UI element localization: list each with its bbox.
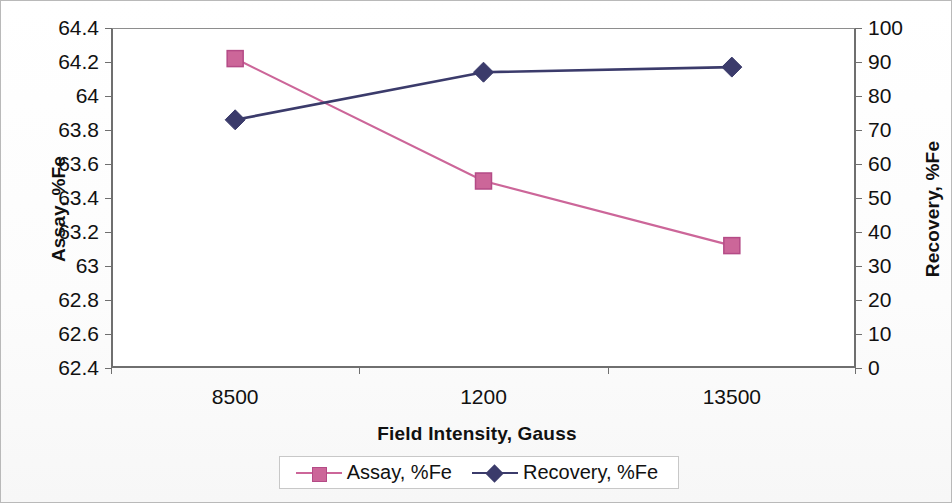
left-tick-label: 64 — [76, 85, 99, 106]
left-tick-label: 63.6 — [58, 153, 99, 174]
tickmark — [855, 232, 862, 233]
legend-entry-assay: Assay, %Fe — [296, 461, 456, 484]
plot-area — [111, 28, 856, 368]
legend-swatch-assay — [296, 464, 342, 482]
tickmark — [855, 130, 862, 131]
diamond-marker-icon — [485, 464, 503, 482]
x-tick-label: 13500 — [672, 386, 792, 407]
chart-legend: Assay, %Fe Recovery, %Fe — [279, 456, 679, 489]
tickmark — [855, 300, 862, 301]
legend-label-assay: Assay, %Fe — [347, 461, 452, 484]
tickmark — [855, 62, 862, 63]
tickmark — [855, 198, 862, 199]
data-point-square — [227, 51, 243, 67]
left-tick-label: 63.8 — [58, 119, 99, 140]
tickmark — [855, 96, 862, 97]
tickmark — [359, 367, 360, 374]
left-tick-label: 62.4 — [58, 357, 99, 378]
left-tick-label: 63 — [76, 255, 99, 276]
data-point-diamond — [722, 57, 742, 77]
left-tick-label: 63.2 — [58, 221, 99, 242]
tickmark — [111, 367, 112, 374]
chart-container: Assay, %Fe Recovery, %Fe Field Intensity… — [0, 0, 952, 503]
right-tick-label: 80 — [868, 85, 891, 106]
right-tick-label: 40 — [868, 221, 891, 242]
right-tick-label: 0 — [868, 357, 880, 378]
legend-swatch-recovery — [472, 464, 518, 482]
legend-label-recovery: Recovery, %Fe — [523, 461, 658, 484]
right-tick-label: 60 — [868, 153, 891, 174]
x-tick-label: 1200 — [424, 386, 544, 407]
right-tick-label: 20 — [868, 289, 891, 310]
right-tick-label: 30 — [868, 255, 891, 276]
series-line-assay — [235, 59, 732, 246]
tickmark — [855, 28, 862, 29]
series-layer — [111, 28, 856, 368]
right-axis-title: Recovery, %Fe — [922, 109, 944, 309]
left-tick-label: 62.6 — [58, 323, 99, 344]
right-tick-label: 10 — [868, 323, 891, 344]
right-tick-label: 50 — [868, 187, 891, 208]
tickmark — [855, 334, 862, 335]
x-tick-label: 8500 — [175, 386, 295, 407]
left-tick-label: 64.2 — [58, 51, 99, 72]
left-tick-label: 64.4 — [58, 17, 99, 38]
right-tick-label: 100 — [868, 17, 903, 38]
tickmark — [855, 164, 862, 165]
right-tick-label: 70 — [868, 119, 891, 140]
tickmark — [855, 266, 862, 267]
data-point-diamond — [474, 62, 494, 82]
legend-entry-recovery: Recovery, %Fe — [472, 461, 662, 484]
tickmark — [855, 367, 856, 374]
tickmark — [608, 367, 609, 374]
data-point-diamond — [225, 110, 245, 130]
data-point-square — [724, 238, 740, 254]
x-axis-title: Field Intensity, Gauss — [1, 423, 952, 445]
right-tick-label: 90 — [868, 51, 891, 72]
tickmark — [855, 368, 862, 369]
left-tick-label: 63.4 — [58, 187, 99, 208]
data-point-square — [476, 173, 492, 189]
square-marker-icon — [312, 467, 327, 482]
left-tick-label: 62.8 — [58, 289, 99, 310]
